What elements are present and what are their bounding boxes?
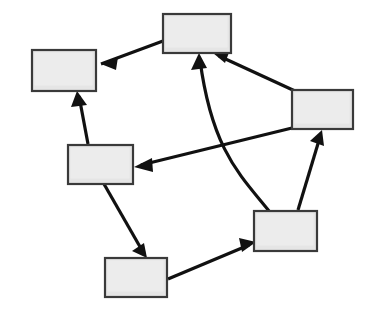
edge-line: [104, 184, 143, 252]
graph-edge: [101, 41, 163, 70]
graph-edge: [191, 53, 269, 211]
edge-line: [298, 137, 320, 210]
graph-edge: [213, 50, 295, 91]
arrowhead-icon: [101, 57, 118, 70]
node-inner-highlight: [257, 214, 314, 246]
node-inner-highlight: [166, 17, 228, 48]
node-inner-highlight: [71, 148, 130, 179]
graph-edge: [134, 128, 292, 172]
edge-line: [219, 56, 295, 91]
node-inner-highlight: [35, 53, 93, 86]
graph-node[interactable]: [32, 50, 96, 91]
graph-node[interactable]: [254, 211, 317, 251]
graph-node[interactable]: [163, 14, 231, 53]
node-layer: [32, 14, 353, 297]
graph-edge: [104, 184, 147, 258]
graph-edge: [298, 130, 324, 210]
graph-node[interactable]: [105, 258, 167, 297]
diagram-canvas: [0, 0, 369, 315]
node-inner-highlight: [295, 93, 350, 124]
graph-edge: [168, 238, 256, 279]
graph-node[interactable]: [68, 145, 133, 184]
directed-graph: [0, 0, 369, 315]
arrowhead-icon: [134, 158, 153, 172]
edge-line: [168, 245, 249, 279]
node-inner-highlight: [108, 261, 164, 292]
graph-edge: [71, 91, 88, 144]
arrowhead-icon: [191, 53, 207, 70]
graph-node[interactable]: [292, 90, 353, 129]
arrowhead-icon: [71, 91, 87, 107]
